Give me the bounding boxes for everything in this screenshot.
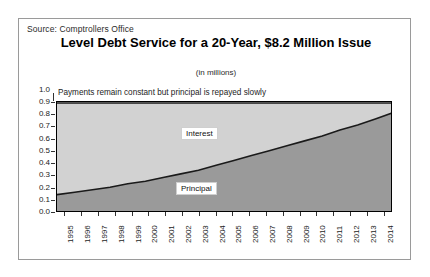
x-axis-tick [165, 212, 166, 216]
y-axis-tick [51, 139, 55, 140]
x-axis-tick [132, 212, 133, 216]
x-axis-tick [350, 212, 351, 216]
x-axis-tick [266, 212, 267, 216]
x-axis-tick-label: 1995 [67, 225, 75, 243]
y-axis-tick-label: 1.0 [39, 86, 50, 94]
source-caption: Source: Comptrollers Office [27, 24, 134, 34]
x-axis-tick-label: 2014 [387, 225, 395, 243]
x-axis-tick [300, 212, 301, 216]
chart-page: Source: Comptrollers Office Level Debt S… [0, 0, 430, 277]
y-axis-tick-label: 0.3 [39, 171, 50, 179]
x-axis-tick-label: 2002 [185, 225, 193, 243]
x-axis-tick [384, 212, 385, 216]
y-axis-tick-label: 0.4 [39, 159, 50, 167]
x-axis-tick-label: 1999 [135, 225, 143, 243]
y-axis-tick [51, 212, 55, 213]
plot-wrapper [56, 101, 392, 212]
x-axis-tick [232, 212, 233, 216]
plot-area [56, 101, 392, 212]
x-axis-tick-label: 2006 [252, 225, 260, 243]
y-axis-tick-label: 0.9 [39, 98, 50, 106]
y-axis-tick [51, 200, 55, 201]
x-axis-tick-label: 2000 [151, 225, 159, 243]
x-axis-tick [367, 212, 368, 216]
y-axis-tick [51, 102, 55, 103]
x-axis-tick [64, 212, 65, 216]
area-chart-svg [57, 102, 392, 212]
chart-subtitle: (in millions) [46, 68, 386, 77]
y-axis-tick [51, 175, 55, 176]
x-axis-tick [216, 212, 217, 216]
y-axis-tick [51, 188, 55, 189]
x-axis-tick-label: 1998 [118, 225, 126, 243]
x-axis-tick [316, 212, 317, 216]
x-axis-tick-label: 2013 [370, 225, 378, 243]
x-axis-tick-label: 2009 [303, 225, 311, 243]
y-axis-tick [51, 126, 55, 127]
x-axis-tick [148, 212, 149, 216]
y-axis-tick-label: 0.5 [39, 147, 50, 155]
x-axis-tick [333, 212, 334, 216]
x-axis-tick [115, 212, 116, 216]
x-axis-tick-label: 2004 [219, 225, 227, 243]
x-axis-tick-label: 2012 [353, 225, 361, 243]
series-label-interest: Interest [181, 127, 218, 140]
y-axis-tick [51, 163, 55, 164]
y-axis-tick-label: 0.6 [39, 135, 50, 143]
x-axis-tick [249, 212, 250, 216]
x-axis-tick-label: 2003 [202, 225, 210, 243]
x-axis-tick [98, 212, 99, 216]
x-axis-tick-label: 2005 [235, 225, 243, 243]
x-axis-tick-label: 2007 [269, 225, 277, 243]
x-axis-tick-label: 2010 [319, 225, 327, 243]
y-axis-tick-label: 0.8 [39, 110, 50, 118]
y-axis-tick [51, 114, 55, 115]
y-axis-tick-label: 0.7 [39, 122, 50, 130]
x-axis-tick [283, 212, 284, 216]
x-axis-tick [81, 212, 82, 216]
x-axis-tick-label: 2008 [286, 225, 294, 243]
y-axis-tick-label: 0.0 [39, 208, 50, 216]
x-axis-tick-label: 2001 [168, 225, 176, 243]
x-axis-tick [199, 212, 200, 216]
y-axis-tick [51, 151, 55, 152]
y-axis-top-cap [53, 93, 54, 101]
x-axis-tick-label: 1996 [84, 225, 92, 243]
x-axis-tick-label: 1997 [101, 225, 109, 243]
x-axis-tick-label: 2011 [336, 226, 344, 243]
chart-annotation: Payments remain constant but principal i… [58, 88, 266, 97]
chart-title: Level Debt Service for a 20-Year, $8.2 M… [46, 36, 386, 51]
series-label-principal: Principal [176, 182, 217, 195]
y-axis-tick-label: 0.2 [39, 184, 50, 192]
x-axis-tick [182, 212, 183, 216]
y-axis-tick-label: 0.1 [39, 196, 50, 204]
y-axis-labels: 0.00.10.20.30.40.50.60.70.80.91.0 [22, 88, 50, 218]
